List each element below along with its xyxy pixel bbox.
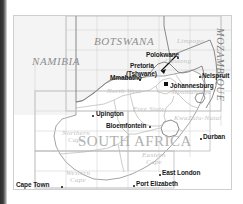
province-label-western-cape-line2: Cape xyxy=(70,177,90,184)
city-label-polokwane: Polokwane xyxy=(146,52,179,59)
city-marker-nelspruit xyxy=(199,76,201,78)
province-label-kwazulu-natal: KwaZulu-Natal xyxy=(174,115,221,122)
map-frame: NAMIBIA BOTSWANA MOZAMBIQUE SOUTH AFRICA… xyxy=(13,15,232,190)
left-edge-gap xyxy=(7,0,10,204)
province-label-mpumalanga: Mpumalanga xyxy=(171,89,211,96)
city-label-nelspruit: Nelspruit xyxy=(202,73,229,80)
left-edge-bar xyxy=(0,0,7,204)
city-marker-cape-town xyxy=(61,186,63,188)
city-marker-port-elizabeth xyxy=(133,185,135,187)
province-label-gauteng: Gauteng xyxy=(165,58,191,65)
province-label-northern-cape: Northern Cape xyxy=(62,130,90,144)
country-label-botswana: BOTSWANA xyxy=(94,36,154,47)
province-label-eastern-cape-line2: Cape xyxy=(146,159,166,166)
province-label-western-cape: Western Cape xyxy=(66,170,90,184)
city-label-johannesburg: Johannesburg xyxy=(170,83,214,90)
city-label-mmabatho: Mmabatho xyxy=(110,75,142,82)
country-label-mozambique: MOZAMBIQUE xyxy=(215,28,226,102)
map-canvas: NAMIBIA BOTSWANA MOZAMBIQUE SOUTH AFRICA… xyxy=(14,16,231,189)
city-label-pretoria: Pretoria xyxy=(130,63,154,70)
country-label-south-africa: SOUTH AFRICA xyxy=(78,134,192,149)
city-marker-upington xyxy=(92,115,94,117)
province-label-northern-cape-line2: Cape xyxy=(68,137,90,144)
city-label-bloemfontein: Bloemfontein xyxy=(106,123,146,130)
city-label-cape-town: Cape Town xyxy=(16,182,49,189)
city-marker-johannesburg xyxy=(164,82,168,86)
city-marker-bloemfontein xyxy=(149,126,151,128)
city-marker-durban xyxy=(200,138,202,140)
map-screenshot: NAMIBIA BOTSWANA MOZAMBIQUE SOUTH AFRICA… xyxy=(0,0,243,204)
country-label-namibia: NAMIBIA xyxy=(32,56,80,67)
province-label-eastern-cape: Eastern Cape xyxy=(142,152,166,166)
province-label-limpopo: Limpopo xyxy=(177,38,204,45)
city-label-port-elizabeth: Port Elizabeth xyxy=(136,181,178,188)
city-label-east-london: East London xyxy=(162,170,200,177)
city-label-upington: Upington xyxy=(96,111,124,118)
city-marker-east-london xyxy=(159,174,161,176)
city-label-durban: Durban xyxy=(203,134,225,141)
province-label-north-west: North West xyxy=(107,88,141,95)
province-label-free-state: Free State xyxy=(133,106,165,113)
